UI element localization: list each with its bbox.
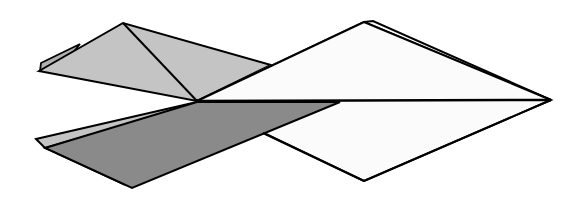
folded-shape-figure [0, 0, 585, 198]
pivot-point [195, 99, 199, 103]
center-fold-line [197, 100, 551, 101]
diagram-canvas: Folded paper shape [0, 0, 585, 198]
